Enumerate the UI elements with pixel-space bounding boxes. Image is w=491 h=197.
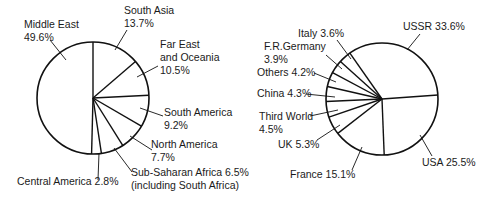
slice-far-east-and-oceania: Far Eastand Oceania10.5%: [137, 38, 220, 77]
slice-label: 10.5%: [160, 64, 190, 76]
slice-label: 7.7%: [151, 151, 175, 163]
slice-label: 49.6%: [24, 31, 54, 43]
leader-line: [407, 34, 420, 50]
slice-label: 3.9%: [264, 53, 288, 65]
slice-others: Others 4.2%: [257, 66, 336, 82]
slice-label: South America: [164, 106, 232, 118]
slice-label: Third World: [259, 110, 313, 122]
slice-ussr: USSR 33.6%: [403, 20, 465, 50]
slice-label: 9.2%: [164, 119, 188, 131]
slice-label: UK 5.3%: [278, 138, 319, 150]
slice-label: and Oceania: [160, 51, 220, 63]
slice-label: Sub-Saharan Africa 6.5%: [131, 166, 249, 178]
leader-line: [337, 40, 351, 59]
slice-south-america: South America9.2%: [140, 106, 232, 131]
slice-france: France 15.1%: [290, 147, 362, 180]
leader-line: [115, 30, 127, 50]
pie-chart-left: South Asia13.7%Far Eastand Oceania10.5%S…: [17, 4, 249, 191]
slice-china: China 4.3%: [257, 87, 335, 99]
slice-label: F.R.Germany: [264, 40, 327, 52]
slice-f-r-germany: F.R.Germany3.9%: [264, 40, 342, 69]
slice-label: Italy 3.6%: [298, 27, 344, 39]
slice-label: China 4.3%: [257, 87, 311, 99]
slice-central-america: Central America 2.8%: [17, 153, 119, 187]
slice-label: South Asia: [124, 4, 174, 16]
leader-line: [114, 148, 132, 172]
slice-usa: USA 25.5%: [420, 135, 476, 168]
slice-label: North America: [151, 138, 218, 150]
slice-north-america: North America7.7%: [130, 136, 218, 163]
slice-label: Middle East: [24, 18, 79, 30]
slice-label: USSR 33.6%: [403, 20, 465, 32]
slice-uk: UK 5.3%: [278, 125, 340, 150]
pie-charts: South Asia13.7%Far Eastand Oceania10.5%S…: [0, 0, 491, 197]
slice-label: (including South Africa): [131, 179, 239, 191]
slice-label: Far East: [160, 38, 200, 50]
slice-sub-saharan-africa-including-south-africa: Sub-Saharan Africa 6.5%(including South …: [114, 148, 249, 191]
slice-label: 13.7%: [124, 17, 154, 29]
slice-label: Central America 2.8%: [17, 175, 119, 187]
slice-label: Others 4.2%: [257, 66, 315, 78]
leader-line: [352, 147, 362, 170]
leader-line: [420, 135, 432, 156]
slice-third-world: Third World4.5%: [259, 110, 338, 135]
leader-line: [130, 136, 152, 150]
pie-chart-right: USSR 33.6%USA 25.5%France 15.1%UK 5.3%Th…: [257, 20, 476, 180]
slice-label: USA 25.5%: [422, 156, 476, 168]
slice-label: 4.5%: [259, 123, 283, 135]
slice-label: France 15.1%: [290, 168, 355, 180]
